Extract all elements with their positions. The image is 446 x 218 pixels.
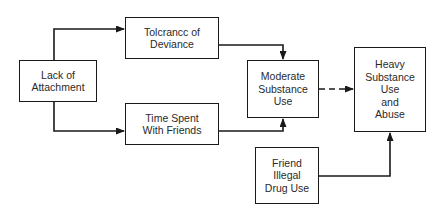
edge-lack-to-time: [54, 102, 124, 131]
edge-friend-to-heavy: [318, 133, 390, 176]
node-lack-of-attachment: Lack of Attachment: [19, 60, 97, 102]
node-label: Tolcrancc of Deviance: [144, 26, 200, 51]
node-heavy-substance-use-and-abuse: Heavy Substance Use and Abuse: [354, 47, 426, 132]
node-tolerance-of-deviance: Tolcrancc of Deviance: [125, 17, 219, 59]
node-label: Heavy Substance Use and Abuse: [365, 58, 415, 121]
node-label: Moderate Substance Use: [258, 70, 308, 108]
node-label: Lack of Attachment: [31, 69, 84, 94]
edge-lack-to-tolerance: [54, 29, 124, 60]
node-label: Time Spent With Friends: [143, 112, 202, 137]
node-moderate-substance-use: Moderate Substance Use: [247, 60, 319, 118]
edge-time-to-moderate: [219, 119, 283, 131]
node-time-spent-with-friends: Time Spent With Friends: [125, 103, 219, 145]
node-label: Friend Illegal Drug Use: [265, 157, 309, 195]
edge-tolerance-to-moderate: [219, 45, 283, 59]
node-friend-illegal-drug-use: Friend Illegal Drug Use: [255, 147, 319, 204]
